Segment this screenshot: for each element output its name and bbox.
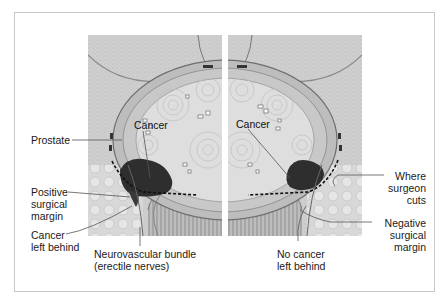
right-anatomy-panel: [228, 35, 362, 236]
cancer-label-left: Cancer: [134, 119, 168, 131]
label-prostate: Prostate: [31, 134, 70, 146]
label-positive-surgical-margin: Positive surgical margin: [31, 186, 68, 222]
left-anatomy-panel: [88, 35, 222, 236]
label-negative-surgical-margin: Negative surgical margin: [370, 217, 426, 253]
cancer-label-right: Cancer: [236, 118, 270, 130]
label-neurovascular-bundle: Neurovascular bundle (erectile nerves): [94, 248, 196, 272]
label-where-surgeon-cuts: Where surgeon cuts: [376, 170, 426, 206]
prostate-illustration-right: [228, 35, 362, 236]
label-cancer-left-behind: Cancer left behind: [31, 229, 79, 253]
prostate-illustration-left: [88, 35, 222, 236]
label-no-cancer-left-behind: No cancer left behind: [277, 248, 325, 272]
